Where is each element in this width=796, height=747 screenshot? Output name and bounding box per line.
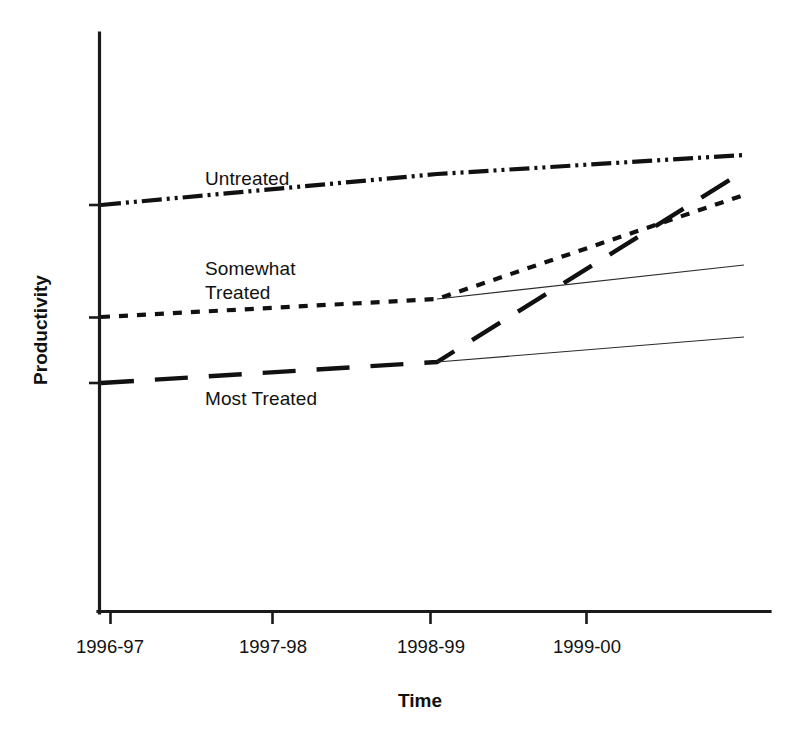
chart-figure: Untreated Somewhat Treated Most Treated … [0, 0, 796, 747]
x-tick-label-0: 1996-97 [76, 636, 144, 657]
x-tick-label-3: 1999-00 [553, 636, 621, 657]
annotation-somewhat-treated-line1: Somewhat [205, 258, 296, 279]
series-line-untreated [101, 155, 744, 205]
series-line-somewhat-treated [101, 195, 744, 317]
series-line-most-treated [101, 171, 744, 383]
x-axis-title: Time [398, 690, 442, 711]
counterfactual-line-most-treated [437, 337, 744, 362]
annotation-most-treated: Most Treated [205, 388, 317, 409]
annotation-somewhat-treated-line2: Treated [205, 282, 270, 303]
x-tick-label-2: 1998-99 [397, 636, 465, 657]
productivity-time-line-chart: Untreated Somewhat Treated Most Treated … [0, 0, 796, 747]
y-axis-title: Productivity [30, 275, 51, 385]
x-tick-label-1: 1997-98 [239, 636, 307, 657]
annotation-untreated: Untreated [205, 168, 289, 189]
